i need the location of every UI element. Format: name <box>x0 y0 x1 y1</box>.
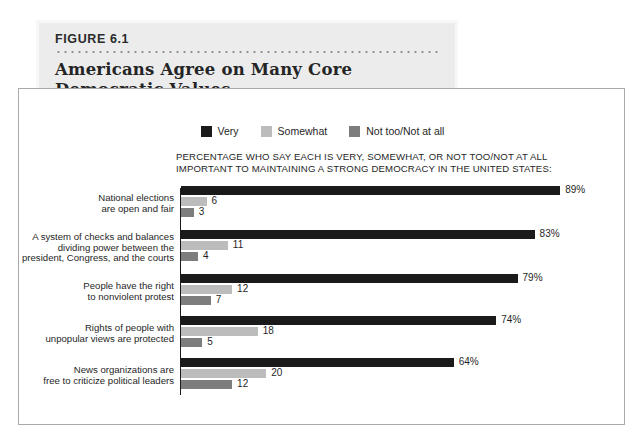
category-label: People have the rightto nonviolent prote… <box>0 281 174 302</box>
bar <box>181 285 232 294</box>
category-label-line: National elections <box>0 193 174 204</box>
chart-frame: Very Somewhat Not too/Not at all PERCENT… <box>18 88 625 425</box>
bar-value-label: 20 <box>271 367 282 378</box>
bar <box>181 208 194 217</box>
chart-subtitle: PERCENTAGE WHO SAY EACH IS VERY, SOMEWHA… <box>176 151 616 174</box>
category-label-line: to nonviolent protest <box>0 292 174 303</box>
bar <box>181 241 228 250</box>
category-label: News organizations arefree to criticize … <box>0 365 174 386</box>
legend-swatch-somewhat <box>261 126 272 137</box>
legend-item-very: Very <box>201 125 239 137</box>
figure-title-line-1: Americans Agree on Many Core <box>55 60 441 80</box>
bar <box>181 296 211 305</box>
chart-legend: Very Somewhat Not too/Not at all <box>19 125 626 137</box>
bar <box>181 358 454 367</box>
bar <box>181 186 560 195</box>
plot-area: National electionsare open and fair89%63… <box>19 186 626 416</box>
bar-value-label: 11 <box>233 239 243 250</box>
bar-value-label: 89% <box>565 184 585 195</box>
bar-value-label: 5 <box>207 336 213 347</box>
bar-value-label: 6 <box>212 195 218 206</box>
legend-label-not-too: Not too/Not at all <box>366 125 444 137</box>
bar-value-label: 64% <box>459 356 479 367</box>
legend-item-not-too: Not too/Not at all <box>349 125 444 137</box>
category-label-line: People have the right <box>0 281 174 292</box>
bar <box>181 197 207 206</box>
bar <box>181 369 266 378</box>
chart-subtitle-line-1: PERCENTAGE WHO SAY EACH IS VERY, SOMEWHA… <box>176 151 616 163</box>
category-label-line: A system of checks and balances <box>0 232 174 243</box>
bar <box>181 274 518 283</box>
bar <box>181 252 198 261</box>
category-label-line: unpopular views are protected <box>0 334 174 345</box>
bar-value-label: 18 <box>263 325 274 336</box>
bar-value-label: 3 <box>199 206 205 217</box>
legend-swatch-very <box>201 126 212 137</box>
bar-value-label: 7 <box>216 294 222 305</box>
bar-value-label: 79% <box>523 272 543 283</box>
bar-value-label: 12 <box>237 378 248 389</box>
bar <box>181 380 232 389</box>
category-label: National electionsare open and fair <box>0 193 174 214</box>
bar <box>181 316 496 325</box>
bar <box>181 230 535 239</box>
category-label-line: are open and fair <box>0 204 174 215</box>
bar-value-label: 83% <box>540 228 560 239</box>
bar <box>181 327 258 336</box>
category-label-line: Rights of people with <box>0 323 174 334</box>
category-label-line: president, Congress, and the courts <box>0 253 174 264</box>
bar <box>181 338 202 347</box>
category-label: A system of checks and balancesdividing … <box>0 232 174 264</box>
bar-value-label: 74% <box>501 314 521 325</box>
legend-item-somewhat: Somewhat <box>261 125 328 137</box>
category-label: Rights of people withunpopular views are… <box>0 323 174 344</box>
category-label-line: free to criticize political leaders <box>0 376 174 387</box>
legend-swatch-not-too <box>349 126 360 137</box>
legend-label-very: Very <box>218 125 239 137</box>
bar-value-label: 12 <box>237 283 248 294</box>
figure-number: FIGURE 6.1 <box>55 32 441 46</box>
legend-label-somewhat: Somewhat <box>278 125 328 137</box>
chart-subtitle-line-2: IMPORTANT TO MAINTAINING A STRONG DEMOCR… <box>176 163 616 175</box>
bar-value-label: 4 <box>203 250 209 261</box>
category-label-line: News organizations are <box>0 365 174 376</box>
dotted-divider <box>55 49 441 53</box>
